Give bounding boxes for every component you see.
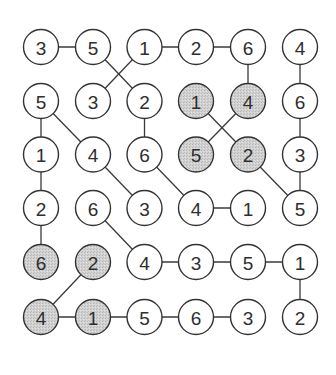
number-node: 2: [24, 191, 59, 226]
node-number: 1: [295, 253, 306, 274]
node-number: 3: [139, 199, 150, 220]
number-node: 3: [283, 137, 318, 172]
number-node: 3: [231, 300, 266, 335]
node-number: 4: [191, 199, 202, 220]
node-number: 3: [88, 92, 99, 113]
node-number: 6: [36, 253, 47, 274]
shaded-number-node: 6: [24, 245, 59, 280]
node-number: 4: [295, 38, 306, 59]
node-number: 6: [88, 199, 99, 220]
connection-lines: [41, 47, 300, 317]
node-number: 5: [295, 199, 306, 220]
node-number: 5: [191, 145, 202, 166]
number-node: 5: [24, 84, 59, 119]
number-node: 6: [231, 30, 266, 65]
node-number: 6: [139, 145, 150, 166]
number-node: 5: [283, 191, 318, 226]
shaded-number-node: 1: [76, 300, 111, 335]
puzzle-diagram: 351264532146146523263415624351415632: [0, 0, 336, 375]
number-node: 5: [127, 300, 162, 335]
number-node: 2: [179, 30, 214, 65]
node-number: 1: [191, 92, 202, 113]
number-node: 1: [24, 137, 59, 172]
node-number: 2: [295, 308, 306, 329]
node-number: 3: [295, 145, 306, 166]
shaded-number-node: 1: [179, 84, 214, 119]
node-number: 4: [243, 92, 254, 113]
number-node: 6: [127, 137, 162, 172]
number-node: 3: [127, 191, 162, 226]
number-node: 3: [76, 84, 111, 119]
number-node: 6: [76, 191, 111, 226]
node-number: 5: [88, 38, 99, 59]
number-node: 5: [231, 245, 266, 280]
node-number: 3: [36, 38, 47, 59]
shaded-number-node: 5: [179, 137, 214, 172]
node-number: 5: [243, 253, 254, 274]
node-number: 2: [88, 253, 99, 274]
node-number: 6: [243, 38, 254, 59]
number-node: 6: [283, 84, 318, 119]
shaded-number-node: 4: [24, 300, 59, 335]
node-number: 4: [88, 145, 99, 166]
number-node: 1: [127, 30, 162, 65]
number-node: 4: [76, 137, 111, 172]
number-node: 4: [127, 245, 162, 280]
number-node: 2: [127, 84, 162, 119]
node-number: 5: [36, 92, 47, 113]
node-number: 3: [243, 308, 254, 329]
node-number: 1: [36, 145, 47, 166]
shaded-number-node: 4: [231, 84, 266, 119]
node-number: 5: [139, 308, 150, 329]
node-number: 1: [88, 308, 99, 329]
number-node: 4: [283, 30, 318, 65]
number-node: 4: [179, 191, 214, 226]
node-number: 2: [243, 145, 254, 166]
number-node: 3: [24, 30, 59, 65]
node-number: 3: [191, 253, 202, 274]
number-node: 3: [179, 245, 214, 280]
node-number: 6: [295, 92, 306, 113]
node-number: 2: [139, 92, 150, 113]
node-number: 2: [36, 199, 47, 220]
node-number: 1: [139, 38, 150, 59]
node-number: 6: [191, 308, 202, 329]
number-node: 5: [76, 30, 111, 65]
shaded-number-node: 2: [76, 245, 111, 280]
node-number: 4: [139, 253, 150, 274]
node-number: 4: [36, 308, 47, 329]
number-node: 1: [283, 245, 318, 280]
number-node: 6: [179, 300, 214, 335]
node-number: 2: [191, 38, 202, 59]
number-node: 2: [283, 300, 318, 335]
number-node: 1: [231, 191, 266, 226]
node-number: 1: [243, 199, 254, 220]
shaded-number-node: 2: [231, 137, 266, 172]
